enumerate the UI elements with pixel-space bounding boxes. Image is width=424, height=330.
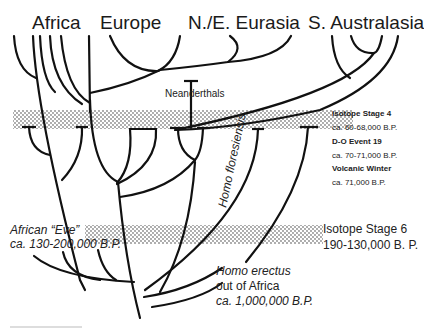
isotope-stage-4-title: Isotope Stage 4 <box>332 109 392 118</box>
homo-erectus-label: Homo erectus <box>216 264 291 278</box>
isotope-stage-4-date: ca. 60-68,000 B.P. <box>332 123 397 132</box>
volcanic-winter-title: Volcanic Winter <box>332 164 391 173</box>
isotope-stage-6-date: 190-130,000 B. P. <box>323 238 418 252</box>
phylogeny-branches <box>14 36 398 318</box>
isotope-stage-6-title: Isotope Stage 6 <box>323 222 407 236</box>
homo-erectus-out-of-africa: out of Africa <box>216 279 280 293</box>
do-event-19-date: ca. 70-71,000 B.P. <box>332 151 397 160</box>
african-eve-date: ca. 130-200,000 B.P. <box>10 237 121 251</box>
homo-erectus-date: ca. 1,000,000 B.P. <box>216 294 313 308</box>
neanderthals-label: Neanderthals <box>165 88 224 99</box>
volcanic-winter-date: ca. 71,000 B.P. <box>332 178 386 187</box>
region-ne-eurasia: N./E. Eurasia <box>188 12 300 33</box>
human-evolution-diagram: Africa Europe N./E. Eurasia S. Australas… <box>0 0 424 330</box>
region-europe: Europe <box>100 12 161 33</box>
region-africa: Africa <box>32 12 81 33</box>
african-eve-label: African “Eve” <box>9 223 80 237</box>
region-s-australasia: S. Australasia <box>308 12 424 33</box>
do-event-19-title: D-O Event 19 <box>332 137 382 146</box>
